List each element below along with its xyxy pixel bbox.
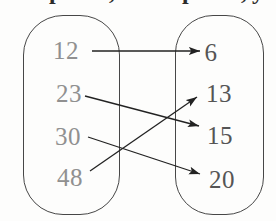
left-set-item: 48 [57,165,83,190]
right-set-item: 15 [207,123,233,148]
cropped-text-fragment: y [252,0,264,3]
right-set-item: 6 [205,40,218,65]
right-set-item: 20 [209,167,235,192]
left-set-item: 12 [53,38,79,63]
cropped-text-fragment: p [182,0,195,3]
left-set-item: 30 [55,124,81,149]
cropped-text-line: p , p , y [0,0,276,9]
cropped-text-fragment: , [109,0,115,3]
left-set-item: 23 [56,81,82,106]
cropped-text-fragment: , [241,0,247,3]
right-set-item: 13 [206,81,232,106]
mapping-diagram: p , p , y 12 23 30 48 6 13 15 20 [0,0,276,221]
cropped-text-fragment: p [49,0,62,3]
